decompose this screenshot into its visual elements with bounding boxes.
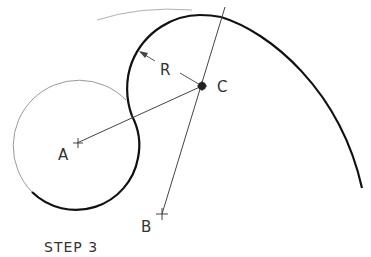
large-arc — [221, 17, 362, 188]
label-b: B — [141, 218, 151, 236]
circle-a-thin-arc — [13, 80, 126, 192]
line-b-c — [162, 7, 225, 214]
geometric-construction-diagram: A B C R STEP 3 — [0, 0, 371, 257]
caption-step: STEP 3 — [44, 239, 98, 255]
circle-a-thick-arc — [32, 116, 139, 210]
label-r: R — [160, 61, 170, 79]
label-c: C — [217, 78, 227, 96]
radius-r-arrowhead — [139, 51, 148, 58]
label-a: A — [58, 146, 69, 164]
